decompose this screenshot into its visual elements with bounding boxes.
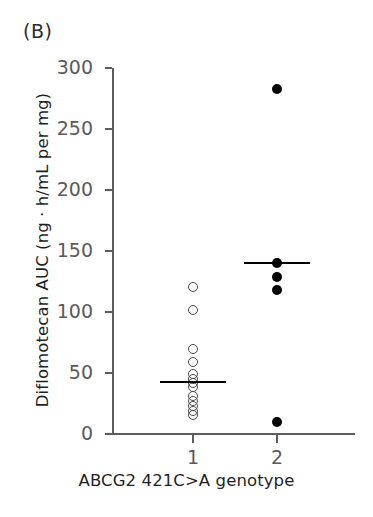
median-line (244, 262, 310, 264)
y-axis-title-container: Diflomotecan AUC (ng · h/mL per mg) (29, 60, 55, 440)
data-point (188, 344, 198, 354)
y-tick-label: 250 (57, 119, 93, 138)
data-point (272, 272, 282, 282)
y-axis-line (112, 68, 114, 435)
data-point (188, 357, 198, 367)
y-tick-label: 200 (57, 180, 93, 199)
median-line (160, 381, 226, 383)
x-tick-label: 2 (271, 448, 283, 467)
y-axis-title: Diflomotecan AUC (ng · h/mL per mg) (33, 93, 52, 407)
data-point (272, 84, 282, 94)
y-tick (105, 189, 112, 191)
x-axis-line (112, 433, 355, 435)
data-point (272, 285, 282, 295)
y-tick (105, 433, 112, 435)
data-point (188, 410, 198, 420)
y-tick-label: 150 (57, 241, 93, 260)
y-tick-label: 0 (81, 424, 93, 443)
y-tick (105, 128, 112, 130)
x-tick (192, 435, 194, 443)
y-tick-label: 100 (57, 302, 93, 321)
y-tick (105, 311, 112, 313)
panel-label: (B) (23, 20, 52, 42)
y-tick (105, 67, 112, 69)
data-point (188, 305, 198, 315)
y-tick-label: 300 (57, 58, 93, 77)
plot-area: 050100150200250300 12 (112, 68, 355, 434)
y-tick (105, 372, 112, 374)
y-tick (105, 250, 112, 252)
x-axis-title: ABCG2 421C>A genotype (0, 471, 373, 490)
data-point (188, 382, 198, 392)
figure-panel-b: (B) Diflomotecan AUC (ng · h/mL per mg) … (0, 0, 373, 517)
data-point (188, 282, 198, 292)
x-tick (276, 435, 278, 443)
y-tick-label: 50 (69, 363, 93, 382)
data-point (272, 417, 282, 427)
x-tick-label: 1 (187, 448, 199, 467)
